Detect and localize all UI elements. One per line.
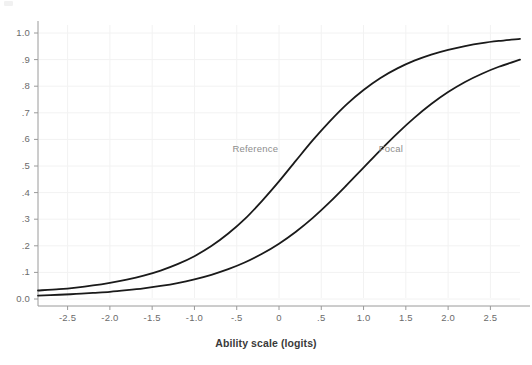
x-tick-label: -.5 bbox=[217, 313, 257, 323]
y-tick-label: .8 bbox=[4, 81, 30, 91]
irt-characteristic-curve-chart: 0.0.1.2.3.4.5.6.7.8.91.0 -2.5-2.0-1.5-1.… bbox=[0, 0, 532, 365]
x-tick-label: -1.5 bbox=[132, 313, 172, 323]
y-tick-label: .7 bbox=[4, 108, 30, 118]
x-tick-label: -2.0 bbox=[90, 313, 130, 323]
curve-annotation-focal: Focal bbox=[379, 143, 403, 154]
gridlines-group bbox=[39, 25, 520, 299]
x-tick-label: .5 bbox=[301, 313, 341, 323]
x-tick-label: 2.5 bbox=[470, 313, 510, 323]
axis-ticks-group bbox=[34, 33, 490, 310]
x-tick-label: 2.0 bbox=[428, 313, 468, 323]
x-tick-label: -1.0 bbox=[174, 313, 214, 323]
y-tick-label: .6 bbox=[4, 134, 30, 144]
y-tick-label: .4 bbox=[4, 188, 30, 198]
y-tick-label: 1.0 bbox=[4, 28, 30, 38]
x-tick-label: -2.5 bbox=[48, 313, 88, 323]
x-tick-label: 1.5 bbox=[386, 313, 426, 323]
curve-annotation-reference: Reference bbox=[232, 143, 278, 154]
y-tick-label: .1 bbox=[4, 267, 30, 277]
y-tick-label: 0.0 bbox=[4, 294, 30, 304]
y-tick-label: .3 bbox=[4, 214, 30, 224]
y-tick-label: .2 bbox=[4, 241, 30, 251]
x-axis-title: Ability scale (logits) bbox=[0, 337, 532, 349]
x-tick-label: 1.0 bbox=[344, 313, 384, 323]
axis-lines-group bbox=[38, 21, 530, 306]
y-tick-label: .9 bbox=[4, 55, 30, 65]
y-tick-label: .5 bbox=[4, 161, 30, 171]
x-tick-label: 0 bbox=[259, 313, 299, 323]
plot-canvas bbox=[0, 0, 532, 365]
